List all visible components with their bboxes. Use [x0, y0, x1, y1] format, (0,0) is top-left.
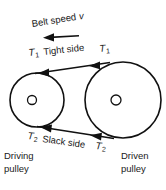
driven-pulley-rim	[85, 62, 161, 138]
tension-t2-left-subscript: 2	[33, 136, 38, 143]
belt-speed-arrowhead-icon	[43, 33, 54, 41]
driving-pulley-caption-line2: pulley	[4, 164, 34, 174]
tension-t2-right-label: T2	[95, 141, 106, 153]
belt-speed-arrow-shaft	[50, 36, 79, 38]
tension-t1-right-subscript: 1	[105, 47, 110, 54]
driving-pulley-caption: Drivingpulley	[4, 151, 34, 173]
belt-drive-diagram: Belt speedv T1 Tight side T1 T2 Slack si…	[0, 0, 166, 190]
tension-t1-left-label: T1	[28, 47, 39, 59]
tension-t2-right-subscript: 2	[101, 146, 106, 153]
driven-pulley-caption: Drivenpulley	[121, 151, 148, 173]
tension-t1-right-label: T1	[99, 43, 110, 55]
driving-pulley-caption-line1: Driving	[4, 150, 34, 161]
tension-t2-left-label: T2	[27, 131, 39, 143]
driven-pulley-caption-line2: pulley	[121, 164, 148, 174]
belt-speed-symbol: v	[75, 10, 84, 22]
driven-pulley-hub-icon	[111, 95, 121, 105]
tension-t1-left-subscript: 1	[34, 51, 39, 58]
driven-pulley-caption-line1: Driven	[121, 150, 148, 161]
driving-pulley-hub-icon	[28, 96, 37, 105]
